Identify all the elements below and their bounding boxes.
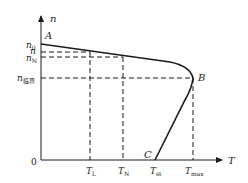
x-tick-Tmax: Tmax bbox=[185, 166, 204, 177]
x-tick-TN: TN bbox=[118, 166, 129, 177]
point-C-label: C bbox=[144, 149, 152, 160]
characteristic-curve bbox=[41, 44, 193, 160]
horizontal-guides bbox=[41, 52, 193, 78]
x-tick-TL: TL bbox=[86, 166, 96, 177]
n-T-characteristic-diagram: n T 0 A B C n0 n nN n临界 TL TN Tst Tmax bbox=[0, 0, 248, 183]
x-axis-label: T bbox=[228, 155, 236, 166]
point-A-label: A bbox=[44, 30, 52, 41]
x-tick-Tst: Tst bbox=[150, 166, 162, 177]
origin-label: 0 bbox=[31, 157, 37, 167]
point-B-label: B bbox=[197, 72, 205, 83]
vertical-guides bbox=[90, 52, 193, 160]
y-tick-n-critical: n临界 bbox=[17, 73, 35, 85]
y-axis-label: n bbox=[50, 13, 56, 24]
